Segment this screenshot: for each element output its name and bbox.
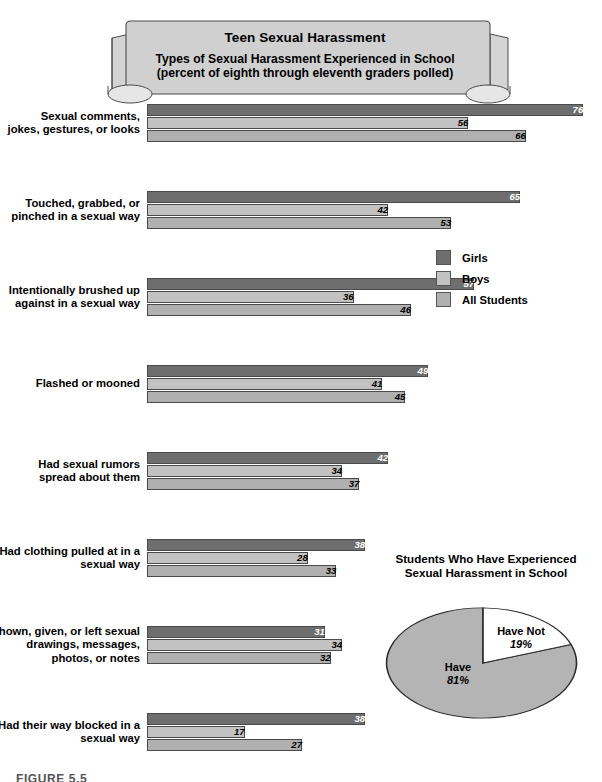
bar-group-label-line: spread about them: [0, 471, 140, 484]
legend-item-all: All Students: [436, 289, 528, 310]
bar-value-label: 27: [147, 739, 306, 751]
bar-value-label: 28: [147, 552, 312, 564]
bar-group-label-line: Had sexual rumors: [0, 458, 140, 471]
bar-group-label: Had sexual rumorsspread about them: [0, 458, 140, 485]
legend-label: Girls: [462, 252, 488, 264]
bar-group-label-line: against in a sexual way: [0, 297, 140, 310]
bar-group-label: Had their way blocked in asexual way: [0, 719, 140, 746]
bar-value-label: 31: [147, 626, 329, 638]
bar-group-label-line: Flashed or mooned: [0, 377, 140, 390]
figure-caption: FIGURE 5.5: [16, 772, 87, 782]
pie-chart-title: Students Who Have Experienced Sexual Har…: [370, 552, 602, 579]
bar-value-label: 46: [147, 304, 415, 316]
bar-group-label: Flashed or mooned: [0, 377, 140, 390]
chart-subtitle-line2: (percent of eighth through eleventh grad…: [122, 66, 488, 80]
bar-value-label: 17: [147, 726, 249, 738]
legend-item-boys: Boys: [436, 268, 528, 289]
chart-subtitle-line1: Types of Sexual Harassment Experienced i…: [122, 52, 488, 66]
pie-chart-graphic: Have 81% Have Not 19%: [376, 597, 596, 727]
bar-value-label: 65: [147, 191, 524, 203]
chart-banner: Teen Sexual Harassment Types of Sexual H…: [0, 8, 602, 104]
bar-value-label: 49: [147, 365, 432, 377]
pie-pct-have-not: 19%: [510, 638, 532, 650]
chart-legend: GirlsBoysAll Students: [436, 247, 528, 310]
bar-value-label: 34: [147, 465, 346, 477]
bar-group-label: Shown, given, or left sexualdrawings, me…: [0, 625, 140, 665]
legend-item-girls: Girls: [436, 247, 528, 268]
legend-label: All Students: [462, 294, 528, 306]
bar-value-label: 57: [147, 278, 478, 290]
bar-value-label: 45: [147, 391, 409, 403]
bar-value-label: 41: [147, 378, 386, 390]
bar-value-label: 38: [147, 539, 369, 551]
bar-value-label: 42: [147, 204, 392, 216]
legend-label: Boys: [462, 273, 490, 285]
banner-text-block: Teen Sexual Harassment Types of Sexual H…: [122, 30, 488, 80]
bar-group-label-line: Had their way blocked in a: [0, 719, 140, 732]
legend-swatch-icon: [436, 292, 451, 307]
bar-value-label: 38: [147, 713, 369, 725]
bar-value-label: 34: [147, 639, 346, 651]
bar-group-label-line: Had clothing pulled at in a: [0, 545, 140, 558]
bar-value-label: 76: [147, 104, 587, 116]
pie-title-line2: Sexual Harassment in School: [370, 566, 602, 580]
bar-group-label-line: sexual way: [0, 732, 140, 745]
bar-group: Sexual comments,jokes, gestures, or look…: [0, 104, 602, 191]
bar-group-label-line: drawings, messages,: [0, 638, 140, 651]
bar-group-label-line: Intentionally brushed up: [0, 284, 140, 297]
bar-group-label-line: jokes, gestures, or looks: [0, 123, 140, 136]
bar-group-label: Had clothing pulled at in asexual way: [0, 545, 140, 572]
bar-group-label: Intentionally brushed upagainst in a sex…: [0, 284, 140, 311]
bar-group-label: Touched, grabbed, orpinched in a sexual …: [0, 197, 140, 224]
bar-group-label-line: Touched, grabbed, or: [0, 197, 140, 210]
bar-value-label: 42: [147, 452, 392, 464]
pie-pct-have: 81%: [447, 674, 469, 686]
chart-title: Teen Sexual Harassment: [122, 30, 488, 45]
pie-title-line1: Students Who Have Experienced: [370, 552, 602, 566]
bar-group: Had sexual rumorsspread about them423437: [0, 452, 602, 539]
bar-group-label: Sexual comments,jokes, gestures, or look…: [0, 110, 140, 137]
bar-group-label-line: pinched in a sexual way: [0, 210, 140, 223]
bar-value-label: 66: [147, 130, 530, 142]
bar-group-label-line: Shown, given, or left sexual: [0, 625, 140, 638]
legend-swatch-icon: [436, 250, 451, 265]
bar-group: Flashed or mooned494145: [0, 365, 602, 452]
bar-value-label: 33: [147, 565, 340, 577]
pie-chart-block: Students Who Have Experienced Sexual Har…: [370, 552, 602, 732]
bar-value-label: 53: [147, 217, 455, 229]
bar-group-label-line: photos, or notes: [0, 652, 140, 665]
pie-label-have-not: Have Not: [497, 625, 545, 637]
bar-group-label-line: sexual way: [0, 558, 140, 571]
bar-group-label-line: Sexual comments,: [0, 110, 140, 123]
bar-value-label: 36: [147, 291, 358, 303]
legend-swatch-icon: [436, 271, 451, 286]
bar-value-label: 32: [147, 652, 335, 664]
bar-value-label: 37: [147, 478, 363, 490]
pie-label-have: Have: [445, 661, 471, 673]
bar-value-label: 56: [147, 117, 472, 129]
